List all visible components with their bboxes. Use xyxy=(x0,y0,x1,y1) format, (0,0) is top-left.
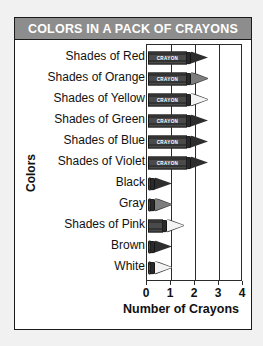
bar-row xyxy=(147,194,241,215)
crayon-brand-text: CRAYON xyxy=(157,139,179,145)
bar-row: CRAYON xyxy=(147,68,241,89)
crayon-brand-text: CRAYON xyxy=(157,76,179,82)
crayon-tip xyxy=(155,261,172,274)
chart-body: Colors Shades of RedShades of OrangeShad… xyxy=(15,40,251,329)
x-tick-label: 3 xyxy=(215,286,222,300)
category-label: Black xyxy=(33,172,145,193)
x-axis-tick-labels: 01234 xyxy=(146,286,242,300)
crayon-wrapper: CRAYON xyxy=(148,93,187,106)
bar-row: CRAYON xyxy=(147,110,241,131)
category-label: Shades of Red xyxy=(33,46,145,67)
crayon-tip xyxy=(155,240,172,253)
crayon-bar xyxy=(148,198,172,211)
category-label: Shades of Orange xyxy=(33,67,145,88)
x-tick xyxy=(146,281,147,285)
x-tick xyxy=(218,281,219,285)
category-label: White xyxy=(33,256,145,277)
crayon-brand-text: CRAYON xyxy=(157,97,179,103)
crayon-brand-text: CRAYON xyxy=(157,55,179,61)
crayon-tip xyxy=(191,51,208,64)
crayon-tip xyxy=(155,177,172,190)
crayon-wrapper xyxy=(148,177,151,190)
crayon-bar xyxy=(148,177,172,190)
crayon-wrapper: CRAYON xyxy=(148,51,187,64)
bar-row: CRAYON xyxy=(147,131,241,152)
bar-row xyxy=(147,236,241,257)
crayon-bar: CRAYON xyxy=(148,72,208,85)
x-tick-label: 2 xyxy=(191,286,198,300)
category-label: Shades of Blue xyxy=(33,130,145,151)
x-tick xyxy=(242,281,243,285)
bar-row xyxy=(147,257,241,278)
crayon-wrapper xyxy=(148,219,163,232)
crayon-wrapper: CRAYON xyxy=(148,156,187,169)
bar-row xyxy=(147,173,241,194)
category-label: Shades of Yellow xyxy=(33,88,145,109)
x-axis-label: Number of Crayons xyxy=(111,302,251,316)
crayon-wrapper xyxy=(148,198,151,211)
crayon-wrapper xyxy=(148,261,151,274)
bar-row: CRAYON xyxy=(147,152,241,173)
crayon-tip xyxy=(191,93,208,106)
crayon-bar xyxy=(148,240,172,253)
category-label: Brown xyxy=(33,235,145,256)
category-label: Gray xyxy=(33,193,145,214)
chart-title-bar: COLORS IN A PACK OF CRAYONS xyxy=(15,18,251,40)
x-tick-label: 1 xyxy=(167,286,174,300)
crayon-bar: CRAYON xyxy=(148,51,208,64)
crayon-tip xyxy=(191,72,208,85)
bar-series: CRAYONCRAYONCRAYONCRAYONCRAYONCRAYON xyxy=(147,47,241,278)
x-tick-label: 0 xyxy=(143,286,150,300)
category-label-column: Shades of RedShades of OrangeShades of Y… xyxy=(33,46,145,277)
bar-row: CRAYON xyxy=(147,47,241,68)
crayon-tip xyxy=(191,114,208,127)
crayon-bar: CRAYON xyxy=(148,93,208,106)
crayon-wrapper: CRAYON xyxy=(148,114,187,127)
x-tick xyxy=(194,281,195,285)
chart-frame: COLORS IN A PACK OF CRAYONS Colors Shade… xyxy=(14,17,252,330)
x-tick xyxy=(170,281,171,285)
category-label: Shades of Green xyxy=(33,109,145,130)
crayon-bar xyxy=(148,219,184,232)
crayon-wrapper xyxy=(148,240,151,253)
crayon-wrapper: CRAYON xyxy=(148,135,187,148)
crayon-bar: CRAYON xyxy=(148,114,208,127)
plot-area: CRAYONCRAYONCRAYONCRAYONCRAYONCRAYON xyxy=(146,44,242,281)
crayon-bar: CRAYON xyxy=(148,135,208,148)
crayon-brand-text: CRAYON xyxy=(157,118,179,124)
bar-row: CRAYON xyxy=(147,89,241,110)
category-label: Shades of Pink xyxy=(33,214,145,235)
crayon-bar: CRAYON xyxy=(148,156,208,169)
crayon-tip xyxy=(191,156,208,169)
crayon-tip xyxy=(155,198,172,211)
bar-row xyxy=(147,215,241,236)
crayon-bar xyxy=(148,261,172,274)
crayon-brand-text: CRAYON xyxy=(157,160,179,166)
x-tick-label: 4 xyxy=(239,286,246,300)
crayon-wrapper: CRAYON xyxy=(148,72,187,85)
crayon-tip xyxy=(167,219,184,232)
category-label: Shades of Violet xyxy=(33,151,145,172)
chart-title: COLORS IN A PACK OF CRAYONS xyxy=(28,22,238,36)
crayon-tip xyxy=(191,135,208,148)
